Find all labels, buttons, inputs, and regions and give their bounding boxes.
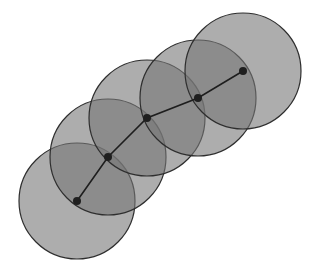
- coverage-discs: [19, 13, 301, 259]
- circle-chain-diagram: [0, 0, 317, 271]
- path-node-4: [194, 94, 202, 102]
- path-node-5: [239, 67, 247, 75]
- path-node-3: [143, 114, 151, 122]
- path-node-2: [104, 153, 112, 161]
- path-node-1: [73, 197, 81, 205]
